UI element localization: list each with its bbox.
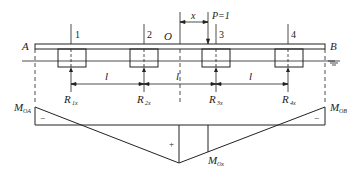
svg-text:OB: OB <box>339 108 347 114</box>
span-dimension <box>71 83 288 86</box>
foundation-1 <box>58 49 86 67</box>
svg-text:R: R <box>136 93 144 105</box>
svg-text:2x: 2x <box>145 100 151 106</box>
moment-label-oa: M OA <box>13 101 31 114</box>
reaction-label-1: R 1x <box>63 93 78 106</box>
moment-diagram <box>35 107 325 163</box>
span-label-3: l <box>249 70 252 82</box>
svg-text:R: R <box>281 93 289 105</box>
reaction-label-3: R 3x <box>208 93 223 106</box>
foundation-4 <box>275 49 303 67</box>
moment-label-ox: M Ox <box>207 154 224 167</box>
moment-label-ob: M OB <box>329 101 347 114</box>
svg-text:R: R <box>63 93 71 105</box>
svg-text:R: R <box>208 93 216 105</box>
foundations <box>58 49 303 67</box>
end-label-a: A <box>21 40 29 52</box>
sign-right: − <box>314 113 319 123</box>
beam <box>35 44 325 49</box>
reaction-label-4: R 4x <box>281 93 296 106</box>
column-number-2: 2 <box>147 29 152 40</box>
column-axes <box>71 24 288 92</box>
column-number-4: 4 <box>291 29 296 40</box>
span-label-2: l <box>176 70 179 82</box>
svg-text:OA: OA <box>23 108 31 114</box>
end-label-b: B <box>330 40 337 52</box>
span-label-1: l <box>105 70 108 82</box>
load-label: P=1 <box>211 10 230 21</box>
column-number-1: 1 <box>75 29 80 40</box>
svg-text:Ox: Ox <box>217 161 224 167</box>
influence-line-diagram: A B O x P=1 1 2 3 4 l l l R 1x R 2x R 3x… <box>0 0 356 180</box>
x-label: x <box>190 10 196 21</box>
ground-symbol-icon <box>328 61 340 65</box>
reaction-label-2: R 2x <box>136 93 151 106</box>
load-arrow-icon <box>207 12 210 44</box>
sign-center: + <box>169 139 174 149</box>
column-number-3: 3 <box>219 29 224 40</box>
svg-text:1x: 1x <box>72 100 78 106</box>
reaction-arrow-icons <box>69 67 290 72</box>
sign-left: − <box>40 113 45 123</box>
svg-text:3x: 3x <box>216 100 223 106</box>
svg-text:4x: 4x <box>290 100 296 106</box>
origin-label: O <box>164 30 172 42</box>
